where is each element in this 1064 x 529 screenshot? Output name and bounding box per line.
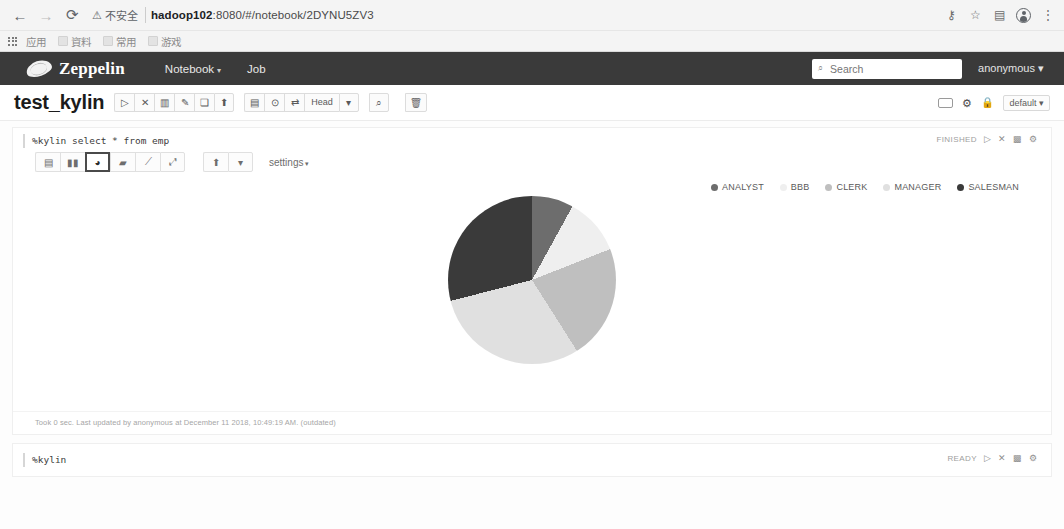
export-button[interactable]: ⬆ (214, 93, 234, 112)
legend-label: SALESMAN (968, 182, 1019, 192)
trash-icon[interactable]: 🗑 (405, 93, 427, 112)
notebook-header: test_kylin ▷ ✕ ▥ ✎ ❏ ⬆ ▤ ⊙ ⇄ Head ▾ ⌕ 🗑 … (0, 85, 1064, 121)
notebook-trash-group: 🗑 (405, 93, 427, 112)
bookmark-item[interactable]: 游戏 (145, 33, 187, 50)
line-chart-button[interactable]: ⟋ (135, 152, 160, 172)
hide-editor-icon[interactable]: ✕ (998, 453, 1006, 463)
area-chart-button[interactable]: ▰ (110, 152, 135, 172)
user-label: anonymous (978, 62, 1035, 74)
paragraph-2: %kylin READY ▷ ✕ ▩ ⚙ (12, 443, 1052, 477)
legend-item-analyst[interactable]: ANALYST (711, 182, 764, 192)
search-box[interactable]: ⌕ (812, 59, 962, 79)
address-bar[interactable]: ⚠ 不安全 hadoop102:8080/#/notebook/2DYNU5ZV… (92, 4, 933, 26)
back-arrow-icon[interactable]: ← (8, 3, 32, 27)
nav-item-notebook[interactable]: Notebook▾ (165, 63, 221, 75)
legend-item-bbb[interactable]: BBB (780, 182, 810, 192)
bookmark-item[interactable]: 資料 (55, 33, 97, 50)
url-path: :8080/#/notebook/2DYNU5ZV3 (213, 9, 374, 21)
revision-label[interactable]: Head (304, 93, 339, 112)
warning-triangle-icon: ⚠ (92, 9, 102, 22)
show-hide-code-button[interactable]: ▥ (154, 93, 174, 112)
clone-button[interactable]: ❏ (194, 93, 214, 112)
run-paragraph-icon[interactable]: ▷ (984, 134, 991, 144)
nav-item-job[interactable]: Job (247, 63, 266, 75)
visualization-toolbar: ▤ ▮▮ ◕ ▰ ⟋ ⤢ ⬆ ▾ settings▾ (13, 150, 1051, 178)
search-input[interactable] (828, 62, 956, 76)
status-badge: READY (947, 454, 977, 463)
reload-icon[interactable]: ⟳ (60, 3, 84, 27)
chevron-down-icon: ▾ (305, 160, 309, 167)
bookmark-label: 常用 (116, 34, 136, 49)
legend-label: MANAGER (894, 182, 941, 192)
hide-output-icon[interactable]: ▩ (1013, 134, 1022, 144)
bookmark-label: 游戏 (161, 34, 181, 49)
pie-chart-holder (13, 196, 1051, 364)
notebook-run-toolbar: ▷ ✕ ▥ ✎ ❏ ⬆ (114, 93, 234, 112)
download-data-button[interactable]: ⬆ (203, 152, 228, 172)
search-icon: ⌕ (818, 63, 823, 74)
zeppelin-notebook-page: ← → ⟳ ⚠ 不安全 hadoop102:8080/#/notebook/2D… (0, 0, 1064, 529)
paragraph-2-code[interactable]: %kylin (23, 453, 66, 467)
user-menu[interactable]: anonymous ▾ (978, 62, 1050, 75)
version-control-button[interactable]: ▤ (244, 93, 264, 112)
hide-output-icon[interactable]: ▩ (1013, 453, 1022, 463)
download-dropdown-caret[interactable]: ▾ (228, 152, 253, 172)
chart-area: ANALYST BBB CLERK MANAGER (13, 178, 1051, 411)
bookmark-item[interactable]: 应用 (23, 33, 52, 50)
schedule-button[interactable]: ⊙ (264, 93, 284, 112)
zeppelin-brand[interactable]: Zeppelin (26, 59, 125, 79)
notebook-title[interactable]: test_kylin (14, 91, 104, 114)
lock-icon[interactable]: 🔒 (981, 96, 994, 109)
clear-output-button[interactable]: ✎ (174, 93, 194, 112)
paragraph-settings-gear-icon[interactable]: ⚙ (1029, 134, 1037, 144)
status-badge: FINISHED (936, 135, 977, 144)
download-group: ⬆ ▾ (203, 152, 253, 172)
navbar-right: ⌕ anonymous ▾ (812, 59, 1050, 79)
paragraph-settings-gear-icon[interactable]: ⚙ (1029, 453, 1037, 463)
run-paragraph-icon[interactable]: ▷ (984, 453, 991, 463)
cancel-button[interactable]: ✕ (134, 93, 154, 112)
menu-icon[interactable]: ⋮ (1039, 7, 1056, 24)
legend-label: CLERK (836, 182, 867, 192)
chevron-down-icon: ▾ (1038, 62, 1044, 74)
permission-label: default (1009, 98, 1036, 108)
extension-icon[interactable]: ▤ (991, 7, 1008, 24)
legend-item-manager[interactable]: MANAGER (883, 182, 941, 192)
scatter-chart-button[interactable]: ⤢ (160, 152, 185, 172)
paragraph-1-code-row: %kylin select * from emp FINISHED ▷ ✕ ▩ … (13, 128, 1051, 150)
forward-arrow-icon[interactable]: → (34, 3, 58, 27)
legend-item-salesman[interactable]: SALESMAN (957, 182, 1019, 192)
key-icon[interactable]: ⚷ (943, 7, 960, 24)
chart-settings-toggle[interactable]: settings▾ (269, 157, 309, 168)
bar-chart-button[interactable]: ▮▮ (60, 152, 85, 172)
notebook-version-toolbar: ▤ ⊙ ⇄ Head ▾ (244, 93, 359, 112)
apps-grid-icon[interactable] (8, 37, 17, 46)
chart-type-group: ▤ ▮▮ ◕ ▰ ⟋ ⤢ (35, 152, 185, 172)
star-icon[interactable]: ☆ (967, 7, 984, 24)
keyboard-icon[interactable] (938, 98, 953, 108)
permission-select[interactable]: default ▾ (1003, 95, 1050, 111)
chevron-down-icon: ▾ (1039, 98, 1044, 108)
interpreter-binding-button[interactable]: ⇄ (284, 93, 304, 112)
legend-color-swatch (957, 184, 964, 191)
table-view-button[interactable]: ▤ (35, 152, 60, 172)
pie-chart-button[interactable]: ◕ (85, 152, 110, 172)
run-all-paragraphs-button[interactable]: ▷ (114, 93, 134, 112)
paragraph-2-status-bar: READY ▷ ✕ ▩ ⚙ (947, 453, 1041, 463)
profile-icon[interactable] (1015, 7, 1032, 24)
search-code-icon[interactable]: ⌕ (369, 93, 389, 112)
bookmark-label: 資料 (71, 34, 91, 49)
bookmark-item[interactable]: 常用 (100, 33, 142, 50)
revision-dropdown-caret[interactable]: ▾ (339, 93, 359, 112)
navbar-menu: Notebook▾ Job (165, 63, 266, 75)
pie-chart[interactable] (448, 196, 616, 364)
gear-icon[interactable]: ⚙ (962, 97, 972, 109)
security-warning[interactable]: ⚠ 不安全 (92, 7, 146, 23)
legend-item-clerk[interactable]: CLERK (825, 182, 867, 192)
paragraph-1-code[interactable]: %kylin select * from emp (23, 134, 169, 148)
favicon-icon (103, 36, 113, 46)
url-text: hadoop102:8080/#/notebook/2DYNU5ZV3 (151, 9, 374, 21)
hide-editor-icon[interactable]: ✕ (998, 134, 1006, 144)
chart-legend: ANALYST BBB CLERK MANAGER (711, 182, 1019, 192)
notebook-body: %kylin select * from emp FINISHED ▷ ✕ ▩ … (0, 121, 1064, 529)
